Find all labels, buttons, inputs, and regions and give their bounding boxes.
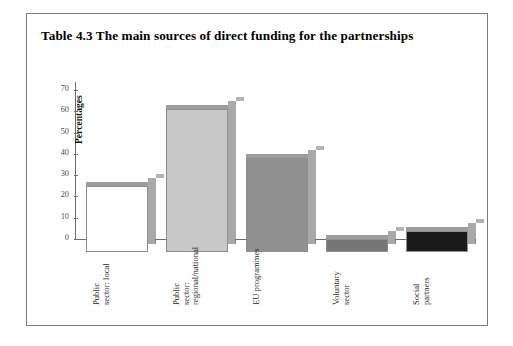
bar	[246, 158, 308, 252]
bar-shadow	[228, 101, 236, 244]
figure-panel: Table 4.3 The main sources of direct fun…	[26, 13, 488, 326]
x-axis-category-label: Publicsector: local	[92, 263, 111, 305]
x-axis-category-label: EU programmes	[252, 248, 262, 305]
category-label-line: partners	[422, 277, 432, 305]
bar-shadow-top	[476, 219, 484, 223]
bar-face	[326, 239, 388, 252]
bar-shadow-top	[396, 227, 404, 231]
bar	[166, 109, 228, 252]
y-tick-label: 10	[47, 212, 69, 221]
bar-shadow-top	[236, 97, 244, 101]
y-tick-mark	[74, 239, 78, 240]
bar-shadow-top	[156, 174, 164, 178]
y-tick-label: 0	[47, 233, 69, 242]
y-tick-mark	[74, 133, 78, 134]
x-tick-mark	[475, 239, 476, 243]
x-axis-category-label: Voluntarysector	[332, 271, 351, 305]
y-axis-label: Percentages	[73, 95, 84, 144]
bar-shadow	[148, 178, 156, 244]
category-label-line: EU programmes	[252, 248, 262, 305]
y-tick-label: 20	[47, 190, 69, 199]
bar	[86, 186, 148, 252]
y-tick-mark	[74, 175, 78, 176]
bar-face	[406, 231, 468, 252]
bar-face	[246, 158, 308, 252]
bar-shadow	[308, 150, 316, 244]
y-tick-label: 50	[47, 127, 69, 136]
y-tick-label: 70	[47, 84, 69, 93]
y-tick-mark	[74, 154, 78, 155]
y-tick-label: 40	[47, 148, 69, 157]
page-title: Table 4.3 The main sources of direct fun…	[41, 28, 414, 44]
category-label-line: sector	[342, 271, 352, 305]
category-label-line: regional/national	[191, 247, 201, 305]
bar-face	[166, 109, 228, 252]
x-axis-category-label: Socialpartners	[412, 277, 431, 305]
bar	[406, 231, 468, 252]
bar-shadow-top	[316, 146, 324, 150]
y-tick-mark	[74, 218, 78, 219]
x-tick-mark	[315, 239, 316, 243]
x-tick-mark	[155, 239, 156, 243]
x-tick-mark	[235, 239, 236, 243]
category-label-line: sector: local	[102, 263, 112, 305]
bar	[326, 239, 388, 252]
x-tick-mark	[395, 239, 396, 243]
chart-plot-area: Percentages 010203040506070 Publicsector…	[75, 82, 475, 252]
x-axis-category-label: Publicsector:regional/national	[172, 247, 201, 305]
y-tick-label: 30	[47, 169, 69, 178]
y-tick-mark	[74, 196, 78, 197]
y-tick-mark	[74, 111, 78, 112]
y-tick-mark	[74, 90, 78, 91]
bar-face	[86, 186, 148, 252]
y-tick-label: 60	[47, 105, 69, 114]
